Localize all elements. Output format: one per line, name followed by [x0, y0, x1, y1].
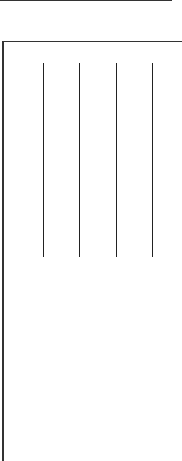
content-panel	[2, 41, 182, 461]
vertical-line	[43, 63, 44, 257]
vertical-line	[152, 63, 153, 257]
vertical-line	[79, 63, 80, 257]
vertical-line	[116, 63, 117, 257]
top-divider	[0, 0, 172, 1]
